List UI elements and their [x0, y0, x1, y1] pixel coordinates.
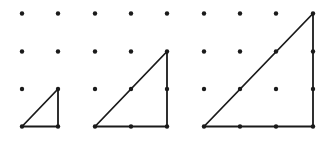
- grid-dot: [311, 11, 315, 15]
- grid-dot: [202, 87, 206, 91]
- grid-dot: [129, 87, 133, 91]
- grid-dot: [93, 49, 97, 53]
- grid-dot: [238, 49, 242, 53]
- grid-dot: [311, 87, 315, 91]
- grid-dot: [56, 11, 60, 15]
- grid-dot: [93, 11, 97, 15]
- grid-dot: [93, 87, 97, 91]
- grid-dot: [311, 124, 315, 128]
- grid-dot: [202, 49, 206, 53]
- grid-dot: [56, 49, 60, 53]
- grid-dot: [20, 11, 24, 15]
- grid-dot: [20, 87, 24, 91]
- grid-dot: [274, 87, 278, 91]
- grid-large-triangle: [204, 14, 313, 127]
- dot-grid-triangles-diagram: [0, 0, 325, 143]
- grid-dot: [93, 124, 97, 128]
- grid-dot: [165, 49, 169, 53]
- triangles-layer: [22, 14, 313, 127]
- grid-dot: [311, 49, 315, 53]
- grid-dot: [202, 11, 206, 15]
- grid-dot: [56, 87, 60, 91]
- grid-dot: [238, 11, 242, 15]
- grid-dot: [238, 87, 242, 91]
- grid-dot: [238, 124, 242, 128]
- grid-dot: [274, 49, 278, 53]
- grid-dot: [165, 11, 169, 15]
- grid-dot: [274, 11, 278, 15]
- grid-dot: [129, 49, 133, 53]
- grid-dot: [165, 124, 169, 128]
- grid-dot: [274, 124, 278, 128]
- grid-dot: [165, 87, 169, 91]
- grid-dot: [56, 124, 60, 128]
- grid-dot: [202, 124, 206, 128]
- grid-small-triangle: [22, 89, 58, 127]
- grid-dot: [129, 11, 133, 15]
- grid-dot: [20, 124, 24, 128]
- grid-dot: [20, 49, 24, 53]
- grid-dot: [129, 124, 133, 128]
